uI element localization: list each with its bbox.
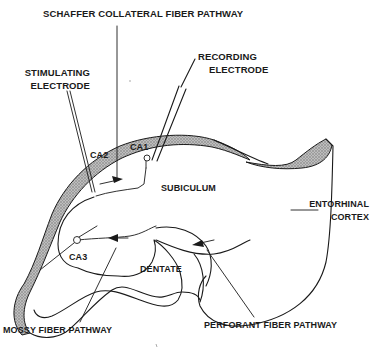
label-perforant-fiber-pathway: PERFORANT FIBER PATHWAY bbox=[204, 319, 337, 332]
entorhinal-shaded-wedge bbox=[246, 139, 332, 169]
label-ca3: CA3 bbox=[69, 251, 87, 264]
label-stimulating-electrode: STIMULATING ELECTRODE bbox=[20, 66, 90, 92]
label-entorhinal-line1: ENTORHINAL bbox=[303, 198, 369, 211]
recording-electrode-tip-line bbox=[181, 59, 195, 87]
label-entorhinal-line2: CORTEX bbox=[303, 211, 369, 224]
hippocampus-diagram: SCHAFFER COLLATERAL FIBER PATHWAY STIMUL… bbox=[0, 0, 383, 347]
schaffer-arrow-head bbox=[112, 176, 123, 183]
label-schaffer-collateral: SCHAFFER COLLATERAL FIBER PATHWAY bbox=[43, 7, 243, 20]
label-stimulating-line1: STIMULATING bbox=[20, 66, 90, 79]
ca1-neuron bbox=[144, 155, 150, 161]
ca3-dendrite-upper bbox=[79, 226, 97, 237]
mossy-arrow-head bbox=[108, 234, 118, 242]
stray-mark bbox=[129, 80, 130, 81]
label-ca2: CA2 bbox=[90, 149, 108, 162]
label-stimulating-line2: ELECTRODE bbox=[20, 79, 90, 92]
perforant-leader-line bbox=[207, 250, 254, 317]
recording-electrode-line-b bbox=[157, 89, 186, 161]
label-recording-line2: ELECTRODE bbox=[198, 63, 269, 76]
ca3-neuron bbox=[74, 237, 81, 244]
label-entorhinal-cortex: ENTORHINAL CORTEX bbox=[303, 198, 369, 224]
label-ca1: CA1 bbox=[130, 141, 148, 154]
label-mossy-fiber-pathway: MOSSY FIBER PATHWAY bbox=[3, 324, 112, 337]
schaffer-axon bbox=[96, 168, 146, 196]
diagram-drawing bbox=[0, 0, 383, 347]
recording-electrode-line-a bbox=[152, 86, 179, 160]
label-dentate: DENTATE bbox=[140, 263, 182, 276]
alveus-band bbox=[14, 135, 250, 335]
label-recording-line1: RECORDING bbox=[198, 50, 269, 63]
label-subiculum: SUBICULUM bbox=[161, 182, 216, 195]
label-recording-electrode: RECORDING ELECTRODE bbox=[198, 50, 269, 76]
perforant-arrow-head bbox=[192, 240, 204, 247]
subiculum-top-contour bbox=[214, 140, 268, 164]
